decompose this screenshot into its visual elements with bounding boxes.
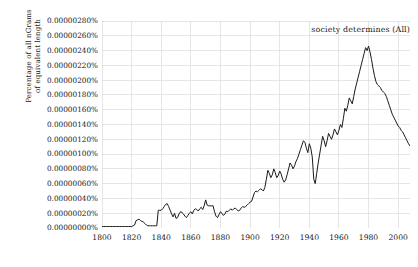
legend-label-society-determines: society determines (All): [311, 25, 410, 34]
x-tick-label: 1860: [181, 234, 200, 242]
x-tick-label: 1840: [152, 234, 171, 242]
x-tick-label: 2000: [388, 234, 407, 242]
x-tick-label: 1940: [300, 234, 319, 242]
x-tick-label: 1820: [122, 234, 141, 242]
x-tick-label: 1980: [359, 234, 378, 242]
ngram-chart: Percentage of all nGrams of equivalent l…: [0, 0, 418, 267]
x-tick-label: 1800: [92, 234, 111, 242]
x-tick-label: 1880: [211, 234, 230, 242]
x-tick-label: 1960: [329, 234, 348, 242]
x-axis-tick-labels: 1800182018401860188019001920194019601980…: [0, 0, 418, 267]
x-tick-label: 1920: [270, 234, 289, 242]
x-tick-label: 1900: [240, 234, 259, 242]
